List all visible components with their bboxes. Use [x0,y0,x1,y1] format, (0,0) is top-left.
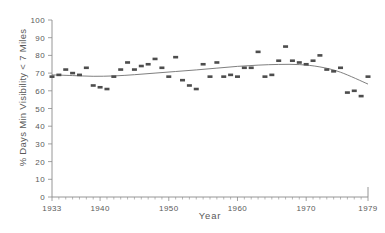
data-point-marker [118,68,123,71]
data-point-marker [256,51,261,54]
data-point-marker [77,74,82,77]
scatter-plot: 0102030405060708090100 19331940195019601… [0,0,385,233]
data-point-marker [283,45,288,48]
data-point-marker [297,61,302,64]
x-tick-label: 1970 [296,204,316,213]
data-point-marker [84,66,89,69]
data-point-marker [359,95,364,98]
x-tick-label: 1979 [358,204,378,213]
data-point-marker [352,90,357,93]
figure-container: % Days Min Visibility < 7 Miles Year 010… [0,0,385,233]
data-point-marker [153,58,158,61]
data-point-marker [235,75,240,78]
trend-line [52,64,368,84]
data-point-marker [70,72,75,75]
data-point-marker [91,84,96,87]
y-axis-ticks: 0102030405060708090100 [30,16,52,202]
y-tick-label: 100 [30,16,45,25]
y-tick-label: 90 [35,34,45,43]
data-point-marker [242,66,247,69]
data-point-marker [208,75,213,78]
data-point-marker [180,79,185,82]
data-point-marker [317,54,322,57]
trend-line-group [52,64,368,84]
y-tick-label: 70 [35,69,45,78]
x-tick-label: 1960 [228,204,248,213]
x-tick-label: 1940 [90,204,110,213]
y-tick-label: 30 [35,140,45,149]
data-point-marker [104,88,109,91]
y-tick-label: 60 [35,87,45,96]
data-point-marker [228,74,233,77]
data-point-marker [187,84,192,87]
data-point-marker [173,56,178,59]
data-point-marker [132,68,137,71]
x-tick-label: 1950 [159,204,179,213]
data-point-marker [159,66,164,69]
y-tick-label: 50 [35,105,45,114]
data-point-marker [262,75,267,78]
x-axis-ticks: 193319401950196019701979 [42,197,378,213]
data-point-marker [111,75,116,78]
data-point-marker [221,75,226,78]
y-tick-label: 40 [35,122,45,131]
data-point-marker [366,75,371,78]
data-point-marker [249,66,254,69]
data-point-marker [345,91,350,94]
data-point-marker [304,63,309,66]
data-point-marker [269,74,274,77]
data-point-marker [201,63,206,66]
y-tick-label: 80 [35,51,45,60]
y-tick-label: 10 [35,175,45,184]
data-point-marker [311,59,316,62]
data-point-marker [98,86,103,89]
data-markers-group [50,45,371,97]
data-point-marker [276,59,281,62]
y-tick-label: 20 [35,158,45,167]
data-point-marker [146,63,151,66]
axis-spine [52,20,368,197]
data-point-marker [214,61,219,64]
data-point-marker [166,75,171,78]
data-point-marker [56,74,61,77]
data-point-marker [125,61,130,64]
y-tick-label: 0 [40,193,45,202]
data-point-marker [50,75,55,78]
data-point-marker [324,68,329,71]
x-tick-label: 1933 [42,204,62,213]
data-point-marker [331,70,336,73]
data-point-marker [338,66,343,69]
data-point-marker [290,59,295,62]
data-point-marker [63,68,68,71]
data-point-marker [194,88,199,91]
data-point-marker [139,65,144,68]
